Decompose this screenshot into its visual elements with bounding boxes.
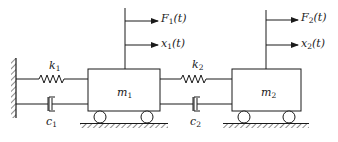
spring-k1 [16, 75, 88, 83]
fixed-wall [11, 58, 16, 118]
label-k1: k1 [49, 59, 60, 73]
mass-spring-damper-diagram: k1 c1 m1 F1(t) x1(t) k2 c2 [0, 0, 338, 142]
label-F1: F1(t) [160, 12, 186, 26]
label-x1: x1(t) [161, 37, 185, 51]
ground-m1 [80, 124, 168, 129]
label-c2: c2 [190, 115, 201, 129]
ground-m2 [223, 124, 309, 129]
damper-c1 [16, 97, 88, 111]
label-x2: x2(t) [301, 37, 325, 51]
label-c1: c1 [46, 115, 57, 129]
spring-k2 [160, 75, 232, 83]
damper-c2 [160, 97, 232, 111]
label-F2: F2(t) [300, 11, 326, 25]
label-k2: k2 [192, 58, 204, 72]
